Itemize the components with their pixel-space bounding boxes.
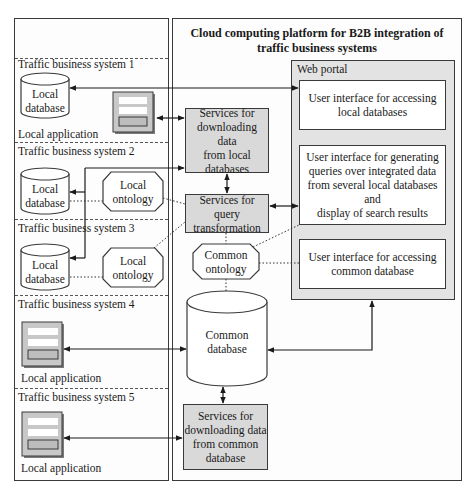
platform-title: Cloud computing platform for B2B integra… <box>172 26 462 56</box>
common-database-text: Common database <box>187 327 267 357</box>
common-ontology-text: Common ontology <box>193 244 259 279</box>
local-ontology-2-text: Local ontology <box>103 172 163 211</box>
ui-common-line: common database <box>331 264 414 278</box>
web-portal-label: Web portal <box>297 63 348 75</box>
service-line: transformation <box>193 221 261 235</box>
ui-common-line: User interface for accessing <box>308 250 436 264</box>
service-line: Services for query <box>186 193 268 221</box>
db-line: database <box>25 272 65 286</box>
local-ontology-3-text: Local ontology <box>103 248 163 287</box>
db-line: Local <box>32 87 58 101</box>
db-line: database <box>25 101 65 115</box>
local-application-label: Local application <box>21 372 101 385</box>
ontology-line: Local <box>120 178 146 192</box>
system-1-label: Traffic business system 1 <box>18 58 135 71</box>
services-download-common: Services for downloading data from commo… <box>183 404 268 470</box>
local-application-label: Local application <box>21 462 101 475</box>
service-line: databases <box>205 162 249 176</box>
ui-query-line: display of search results <box>317 206 428 220</box>
ui-access-local-databases[interactable]: User interface for accessing local datab… <box>299 80 446 130</box>
ui-access-common-database[interactable]: User interface for accessing common data… <box>299 239 446 289</box>
system-separator <box>15 142 168 143</box>
ontology-line: Common <box>205 248 248 262</box>
platform-title-line2: traffic business systems <box>172 41 462 56</box>
db-line: database <box>207 342 247 356</box>
ontology-line: ontology <box>113 192 154 206</box>
ui-local-line: local databases <box>338 105 407 119</box>
system-4-label: Traffic business system 4 <box>18 298 135 311</box>
system-separator <box>15 219 168 220</box>
ontology-line: ontology <box>113 268 154 282</box>
service-line: Services for <box>199 106 254 120</box>
services-query-transformation: Services for query transformation <box>185 194 269 233</box>
db-line: Local <box>32 258 58 272</box>
local-application-label: Local application <box>18 128 98 141</box>
local-database-3-text: Local database <box>21 258 69 286</box>
ui-query-line: from several local databases and <box>304 178 441 206</box>
ui-local-line: User interface for accessing <box>308 91 436 105</box>
local-database-2-text: Local database <box>21 182 69 210</box>
system-separator <box>15 295 168 296</box>
diagram-canvas: Cloud computing platform for B2B integra… <box>0 0 473 490</box>
service-line: from local <box>203 148 251 162</box>
ui-query-line: queries over integrated data <box>309 164 436 178</box>
services-download-local: Services for downloading data from local… <box>185 108 269 173</box>
system-5-label: Traffic business system 5 <box>18 391 135 404</box>
service-line: downloading data <box>186 120 268 148</box>
service-line: Services for <box>198 409 253 423</box>
ui-query-line: User interface for generating <box>306 150 439 164</box>
ui-generate-queries[interactable]: User interface for generating queries ov… <box>299 145 446 225</box>
db-line: Common <box>206 328 249 342</box>
ontology-line: ontology <box>206 262 247 276</box>
system-3-label: Traffic business system 3 <box>18 222 135 235</box>
system-separator <box>15 388 168 389</box>
ontology-line: Local <box>120 254 146 268</box>
system-2-label: Traffic business system 2 <box>18 145 135 158</box>
local-database-1-text: Local database <box>21 87 69 115</box>
platform-title-line1: Cloud computing platform for B2B integra… <box>172 26 462 41</box>
service-line: downloading data <box>184 423 266 437</box>
service-line: from common <box>193 437 258 451</box>
db-line: database <box>25 196 65 210</box>
service-line: database <box>206 451 246 465</box>
db-line: Local <box>32 182 58 196</box>
